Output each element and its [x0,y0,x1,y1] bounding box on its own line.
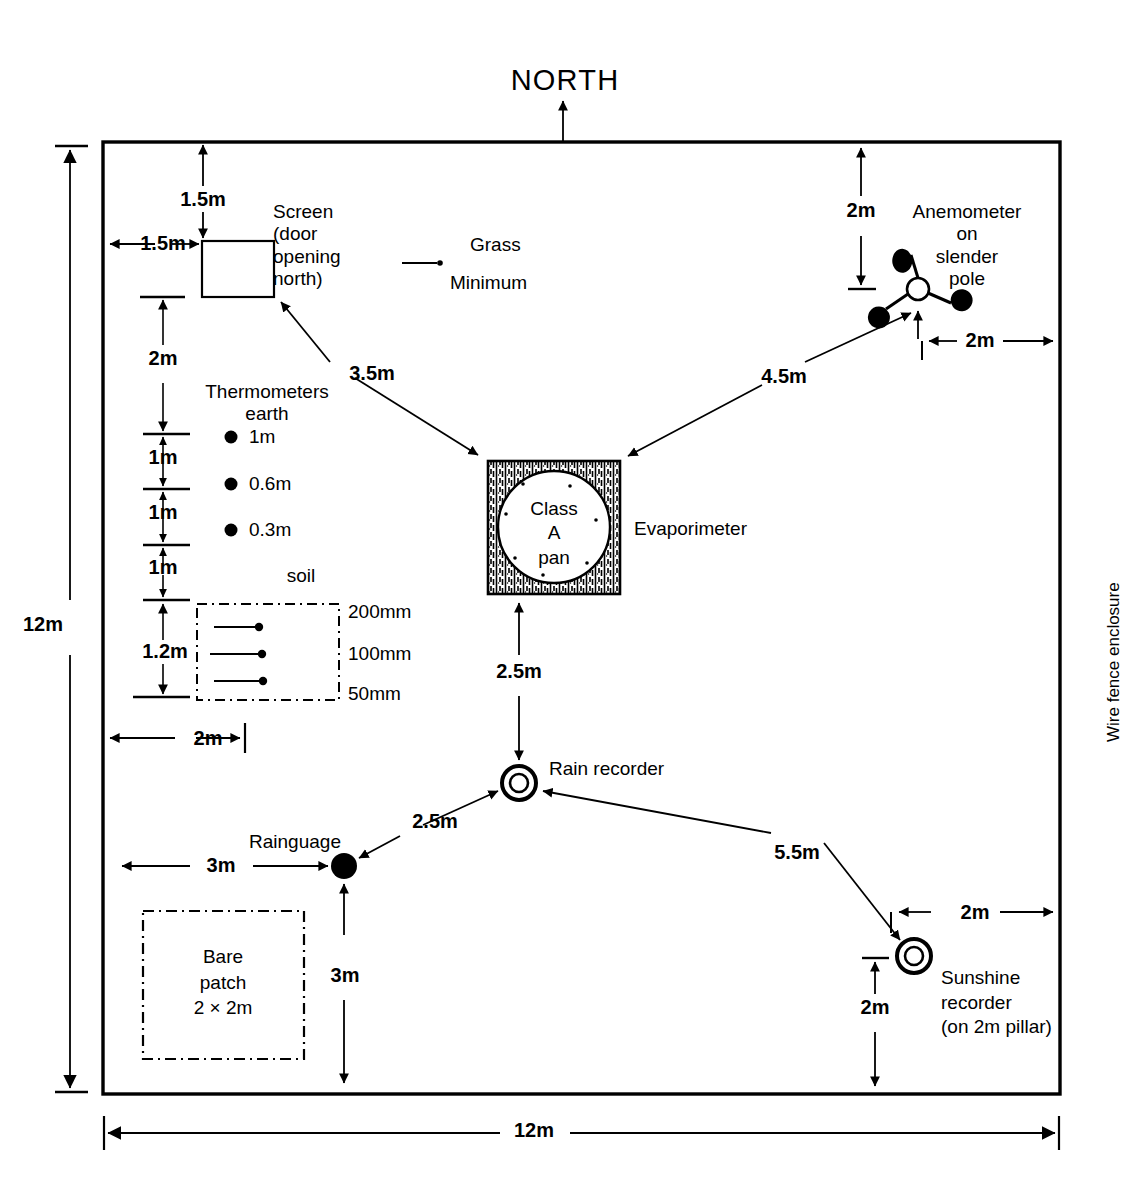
rain-recorder-symbol [502,766,536,800]
thermo-depth-0p6m: 0.6m [249,473,291,495]
rainguage-label: Rainguage [249,831,341,853]
dim-rainguage-west-label: 3m [207,854,236,878]
dim-pan-to-recorder-label: 2.5m [496,660,542,684]
dim-pan-to-anemometer-label: 4.5m [761,365,807,389]
dim-screen-west-label: 1.5m [140,232,186,256]
soil-depth-100mm: 100mm [348,643,411,665]
dim-screen-to-thermo-label: 2m [149,347,178,371]
dim-sunshine-east-label: 2m [961,901,990,925]
dim-thermo-1-label: 1m [149,446,178,470]
soil-depth-50mm: 50mm [348,683,401,705]
wire-fence-label: Wire fence enclosure [1104,582,1124,742]
rain-recorder-label: Rain recorder [549,758,664,780]
soil-probe-box [197,604,339,700]
screen-box [202,241,274,297]
north-label: NORTH [511,63,620,97]
earth-thermometer-markers [225,431,238,537]
dim-anemometer-east-label: 2m [966,329,995,353]
sunshine-recorder-symbol [897,939,931,973]
dim-anemometer-north-label: 2m [847,199,876,223]
anemometer-label: Anemometer on slender pole [913,201,1022,291]
grass-minimum-symbol [402,260,443,266]
dim-soil-box-label: 1.2m [142,640,188,664]
thermometers-heading: Thermometers earth [205,381,329,426]
thermo-depth-1m: 1m [249,426,275,448]
dimension-recorder-to-sunshine [543,791,900,940]
dim-thermo-row-label: 2m [194,727,223,751]
dimension-enclosure-width [104,1116,1059,1150]
dim-enclosure-height-label: 12m [23,613,63,637]
dim-thermo-2-label: 1m [149,501,178,525]
grass-label: Grass [470,234,521,256]
dimension-thermo-row-from-fence [110,723,245,753]
soil-heading: soil [287,565,316,587]
dim-rainguage-south-label: 3m [331,964,360,988]
dim-screen-to-pan-label: 3.5m [349,362,395,386]
class-a-pan-label: Class A pan [530,497,578,570]
sunshine-recorder-label: Sunshine recorder (on 2m pillar) [941,966,1052,1040]
diagram-canvas: NORTH Wire fence enclosure 1.5m 1.5m Scr… [0,0,1139,1201]
dim-sunshine-south-label: 2m [861,996,890,1020]
dim-enclosure-width-label: 12m [514,1119,554,1143]
thermo-depth-0p3m: 0.3m [249,519,291,541]
screen-label: Screen (door opening north) [273,201,341,291]
dim-screen-north-label: 1.5m [180,188,226,212]
minimum-label: Minimum [450,272,527,294]
dim-rainguage-to-recorder-label: 2.5m [412,810,458,834]
bare-patch-label: Bare patch 2 × 2m [194,944,253,1021]
dim-recorder-to-sunshine-label: 5.5m [774,841,820,865]
dim-thermo-3-label: 1m [149,556,178,580]
soil-depth-200mm: 200mm [348,601,411,623]
rainguage-symbol [331,853,357,879]
dimension-sunshine-from-south [862,958,889,1086]
evaporimeter-label: Evaporimeter [634,518,747,540]
